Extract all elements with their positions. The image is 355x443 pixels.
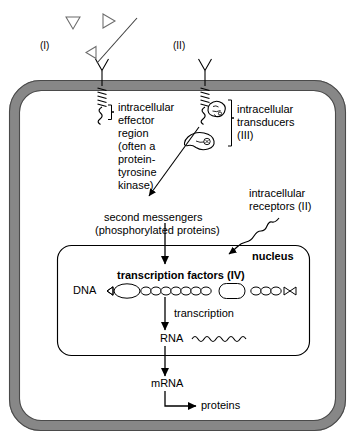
effector-bracket <box>108 105 114 120</box>
effector-line-1: effector <box>118 114 155 127</box>
arrow-transducer-to-messengers <box>149 127 199 196</box>
intracellular-receptors-line-1: receptors (II) <box>249 200 311 213</box>
label-second-messengers-line1: second messengers <box>104 211 202 224</box>
transducers-line-2: (III) <box>237 129 254 142</box>
effector-line-3: (often a <box>118 140 155 153</box>
intracellular-receptors-line-0: intracellular <box>249 187 305 200</box>
effector-line-5: tyrosine <box>118 166 157 179</box>
arrow-mrna-to-proteins <box>165 391 196 406</box>
transducer-blob-upper <box>208 101 225 116</box>
label-second-messengers-line2: (phosphorylated proteins) <box>95 224 220 237</box>
label-transcription-factors: transcription factors (IV) <box>117 269 245 282</box>
triangle-ligand-3 <box>86 47 96 59</box>
label-dna: DNA <box>73 284 96 297</box>
diagram-canvas: (I) (II) intracellular effector region (… <box>0 0 355 443</box>
effector-line-2: region <box>118 127 149 140</box>
label-pathway-two: (II) <box>173 40 185 52</box>
effector-line-6: kinase) <box>118 179 153 192</box>
label-rna: RNA <box>160 332 183 345</box>
label-proteins: proteins <box>201 399 240 412</box>
effector-line-4: protein- <box>118 153 155 166</box>
transcription-factor-bead-1 <box>114 284 140 298</box>
ligand-triangles <box>66 14 115 59</box>
transducers-line-0: intracellular <box>237 103 293 116</box>
receptor-one <box>96 59 109 125</box>
transducers-line-1: transducers <box>237 116 294 129</box>
label-nucleus: nucleus <box>252 250 294 263</box>
triangle-ligand-1 <box>66 17 80 29</box>
transducers-bracket <box>228 100 234 146</box>
transcription-factor-bead-2 <box>219 284 245 299</box>
effector-line-0: intracellular <box>118 101 174 114</box>
transducer-blobs <box>184 101 225 150</box>
triangle-ligand-2 <box>103 14 115 28</box>
label-transcription: transcription <box>174 307 234 320</box>
label-pathway-one: (I) <box>40 40 49 52</box>
label-mrna: mRNA <box>151 377 183 390</box>
